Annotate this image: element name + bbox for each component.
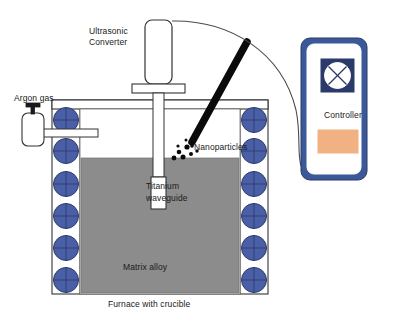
label-matrix-alloy: Matrix alloy — [123, 262, 167, 273]
label-titanium-line1: Titanium — [146, 180, 188, 192]
label-nanoparticles: Nanoparticles — [194, 142, 247, 153]
schematic-svg — [0, 0, 393, 326]
controller-unit[interactable] — [301, 38, 367, 180]
label-controller: Controller — [324, 110, 362, 121]
argon-feed-pipe — [41, 129, 98, 137]
coil-left-6 — [54, 268, 79, 293]
controller-action-button[interactable] — [318, 130, 358, 153]
label-titanium-line2: waveguide — [146, 192, 188, 204]
diagram-canvas: Ultrasonic Converter Argon gas Nanoparti… — [0, 0, 393, 326]
converter-mounting-flange — [132, 84, 185, 93]
coil-left-4 — [54, 204, 79, 229]
coil-right-1 — [242, 108, 267, 133]
label-argon-gas: Argon gas — [14, 93, 54, 104]
label-ultrasonic-converter: Ultrasonic Converter — [89, 26, 128, 48]
coil-right-5 — [242, 236, 267, 261]
argon-cylinder — [22, 113, 44, 146]
booster-shaft — [153, 93, 164, 177]
label-ultrasonic-line2: Converter — [89, 37, 128, 48]
coil-left-3 — [54, 172, 79, 197]
coil-right-6 — [242, 268, 267, 293]
coil-right-4 — [242, 204, 267, 229]
coil-left-2 — [54, 139, 79, 164]
label-ultrasonic-line1: Ultrasonic — [89, 26, 128, 37]
coil-right-3 — [242, 172, 267, 197]
label-titanium-waveguide: Titanium waveguide — [146, 180, 188, 204]
coil-left-5 — [54, 236, 79, 261]
label-furnace-with-crucible: Furnace with crucible — [108, 299, 190, 310]
ultrasonic-converter-body — [145, 20, 172, 84]
